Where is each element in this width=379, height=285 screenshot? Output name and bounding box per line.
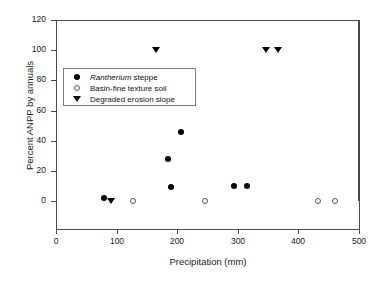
x-axis-tick-label: 0 <box>36 237 76 246</box>
data-point-open-circle <box>202 198 208 204</box>
legend-marker-filled-circle <box>74 74 80 80</box>
legend-marker-slot <box>77 88 80 91</box>
x-axis-tick <box>359 229 360 234</box>
y-axis-tick <box>51 171 56 172</box>
y-axis-tick <box>51 111 56 112</box>
legend-label-genus: Rantherium <box>90 73 131 82</box>
x-axis-line <box>56 229 360 230</box>
x-axis-tick <box>117 229 118 234</box>
legend-item-label: Degraded erosion slope <box>90 94 175 105</box>
data-point-down-triangle <box>262 47 270 53</box>
legend-item-label: Rantherium steppe <box>90 72 158 83</box>
x-axis-tick <box>238 229 239 234</box>
y-axis-tick <box>51 201 56 202</box>
legend-item: Basin-fine texture soil <box>64 83 197 94</box>
plot-frame-right-edge <box>359 20 360 229</box>
data-point-open-circle <box>315 198 321 204</box>
y-axis-tick <box>51 141 56 142</box>
data-point-filled-circle <box>231 183 237 189</box>
x-axis-tick-label: 200 <box>157 237 197 246</box>
x-axis-tick-label: 300 <box>218 237 258 246</box>
y-axis-tick <box>51 20 56 21</box>
x-axis-tick-label: 100 <box>97 237 137 246</box>
y-axis-tick-label: 20 <box>37 166 46 175</box>
legend-item: Degraded erosion slope <box>64 94 197 105</box>
x-axis-tick <box>56 229 57 234</box>
x-axis-tick <box>298 229 299 234</box>
x-axis-title: Precipitation (mm) <box>56 256 360 267</box>
y-axis-title: Percent ANPP by annuals <box>24 26 35 206</box>
y-axis-tick-label: 120 <box>32 15 46 24</box>
data-point-down-triangle <box>274 47 282 53</box>
legend-marker-open-circle <box>74 85 80 91</box>
data-point-down-triangle <box>107 198 115 204</box>
x-axis-tick-label: 400 <box>278 237 318 246</box>
y-axis-tick <box>51 80 56 81</box>
y-axis-tick-label: 80 <box>37 75 46 84</box>
legend-marker-down-triangle <box>73 96 81 102</box>
y-axis-line <box>56 20 57 229</box>
plot-area-frame <box>56 20 359 201</box>
chart-legend: Rantherium steppeBasin-fine texture soil… <box>63 68 196 106</box>
data-point-filled-circle <box>165 156 171 162</box>
legend-marker-slot <box>77 99 81 102</box>
y-axis-tick-label: 60 <box>37 106 46 115</box>
data-point-open-circle <box>332 198 338 204</box>
x-axis-tick-label: 500 <box>339 237 379 246</box>
legend-marker-slot <box>77 77 80 80</box>
x-axis-tick <box>177 229 178 234</box>
y-axis-tick <box>51 50 56 51</box>
data-point-down-triangle <box>152 47 160 53</box>
legend-item-label: Basin-fine texture soil <box>90 83 166 94</box>
legend-item: Rantherium steppe <box>64 72 197 83</box>
y-axis-tick-label: 0 <box>41 196 46 205</box>
data-point-open-circle <box>130 198 136 204</box>
y-axis-tick-label: 40 <box>37 136 46 145</box>
scatter-plot-figure: 020406080100120 0100200300400500 Percent… <box>0 0 379 285</box>
